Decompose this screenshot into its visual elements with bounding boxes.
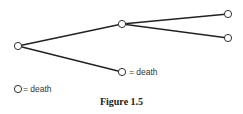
node-root-icon	[14, 42, 21, 49]
legend-label: = death	[23, 84, 52, 94]
edge-root-bottom	[18, 46, 122, 72]
tree-diagram: = death = death Figure 1.5	[0, 0, 243, 114]
node-middle-icon	[118, 20, 125, 27]
node-mid-right-icon	[224, 34, 231, 41]
edge-middle-top-right	[122, 14, 228, 24]
node-top-right-icon	[224, 10, 231, 17]
edge-middle-mid-right	[122, 24, 228, 38]
legend-circle-icon	[14, 85, 21, 92]
figure-caption: Figure 1.5	[0, 96, 243, 107]
bottom-node-label: = death	[129, 67, 158, 77]
node-bottom-death-icon	[118, 68, 125, 75]
edge-root-middle	[18, 24, 122, 46]
nodes	[14, 10, 231, 92]
